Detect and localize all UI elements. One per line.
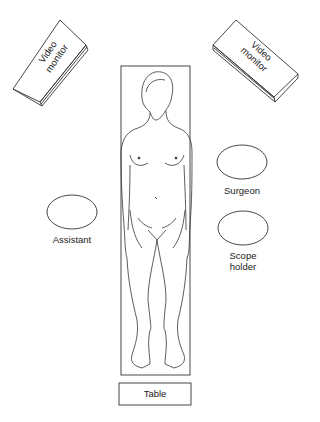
- surgeon-position: [217, 145, 267, 179]
- patient-figure: [121, 72, 192, 368]
- surgeon-label: Surgeon: [212, 185, 272, 196]
- table-label: Table: [119, 388, 191, 399]
- assistant-label: Assistant: [42, 234, 102, 245]
- assistant-position: [47, 195, 97, 229]
- scope-holder-label: Scope holder: [213, 250, 273, 272]
- label-line: Scope: [213, 250, 273, 261]
- scope-holder-position: [218, 211, 268, 245]
- label-line: holder: [213, 261, 273, 272]
